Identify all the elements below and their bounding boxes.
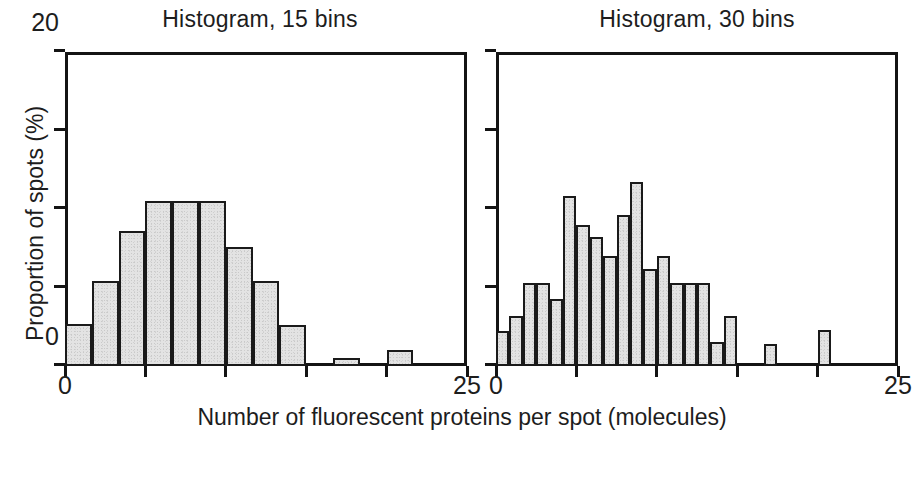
histogram-bar — [684, 283, 697, 366]
x-axis-tick — [655, 366, 658, 377]
histogram-bar — [590, 237, 603, 366]
histogram-bar — [643, 269, 656, 366]
histogram-bar — [253, 281, 280, 366]
histogram-bar — [630, 182, 643, 366]
x-axis-tick — [305, 366, 308, 377]
histogram-bar — [279, 325, 306, 366]
y-axis-tick — [54, 49, 65, 52]
histogram-bar — [226, 247, 253, 366]
histogram-bar — [670, 283, 683, 366]
plot-panel-30-bins: 025 — [496, 52, 898, 366]
panel-title-left: Histogram, 15 bins — [50, 6, 470, 33]
histogram-bar — [523, 283, 536, 366]
histogram-bar — [764, 344, 777, 366]
histogram-bar — [563, 196, 576, 366]
y-axis-tick — [54, 128, 65, 131]
histogram-bar — [818, 330, 831, 366]
histogram-figure: Histogram, 15 bins Histogram, 30 bins Pr… — [0, 0, 924, 483]
histogram-bar — [603, 256, 616, 366]
histogram-bar — [496, 331, 509, 366]
x-axis-tick-label: 25 — [453, 371, 481, 400]
panel-title-right: Histogram, 30 bins — [488, 6, 906, 33]
histogram-bar — [333, 358, 360, 366]
x-axis-tick — [224, 366, 227, 377]
x-axis-tick-label: 0 — [489, 371, 503, 400]
x-axis-tick — [736, 366, 739, 377]
histogram-bar — [199, 201, 226, 366]
histogram-bar — [617, 215, 630, 366]
histogram-bar — [550, 299, 563, 367]
histogram-bar — [119, 231, 146, 366]
x-axis-label: Number of fluorescent proteins per spot … — [0, 404, 924, 431]
y-axis-tick — [54, 206, 65, 209]
plot-panel-15-bins: 020 025 — [65, 52, 467, 366]
histogram-bar — [65, 324, 92, 366]
histogram-bar — [536, 283, 549, 366]
histogram-bar — [145, 201, 172, 366]
bar-group-left — [65, 52, 467, 366]
y-axis-tick — [54, 285, 65, 288]
histogram-bar — [576, 225, 589, 366]
histogram-bar — [710, 342, 723, 366]
y-axis-tick — [485, 128, 496, 131]
y-axis-tick — [485, 285, 496, 288]
histogram-bar — [172, 201, 199, 366]
x-axis-tick — [575, 366, 578, 377]
histogram-bar — [387, 350, 414, 366]
bar-group-right — [496, 52, 898, 366]
histogram-bar — [697, 283, 710, 366]
histogram-bar — [92, 281, 119, 366]
x-axis-tick — [816, 366, 819, 377]
histogram-bar — [509, 316, 522, 366]
y-axis-tick — [485, 206, 496, 209]
y-axis-tick-label: 20 — [31, 8, 59, 37]
y-axis-tick — [485, 49, 496, 52]
y-axis-tick-label: 0 — [45, 322, 59, 351]
x-axis-tick — [144, 366, 147, 377]
histogram-bar — [724, 316, 737, 366]
x-axis-tick — [385, 366, 388, 377]
x-axis-tick-label: 25 — [884, 371, 912, 400]
x-axis-tick-label: 0 — [58, 371, 72, 400]
histogram-bar — [657, 256, 670, 366]
